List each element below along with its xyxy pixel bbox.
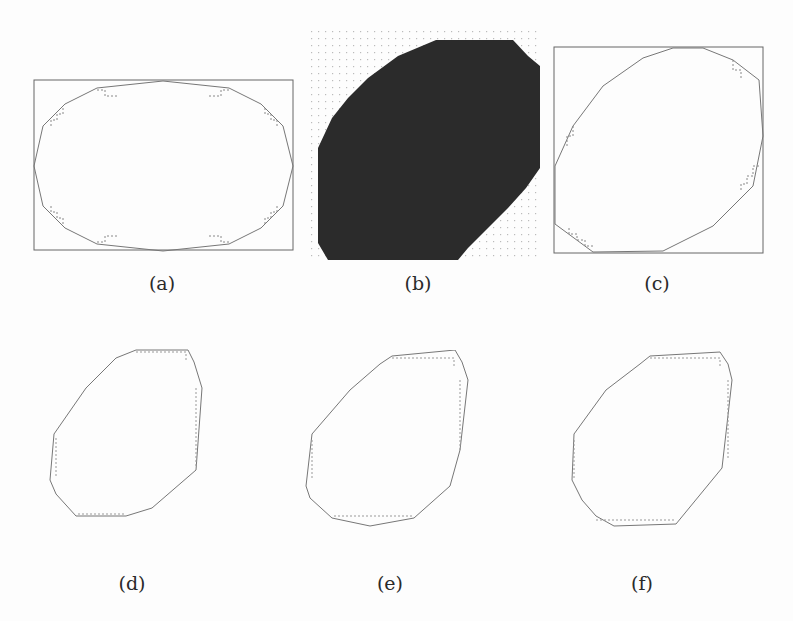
- ellipse-figure-c: [553, 46, 765, 256]
- caption-c: (c): [627, 272, 687, 294]
- pixel-ellipse-figure-b: [308, 28, 540, 260]
- polygon-figure-e: [300, 350, 490, 540]
- polygon-figure-d: [46, 348, 236, 538]
- panel-f: [556, 350, 746, 540]
- caption-a: (a): [132, 272, 192, 294]
- polygon-figure-f: [556, 350, 746, 540]
- panel-d: [46, 348, 236, 538]
- caption-d: (d): [102, 572, 162, 594]
- caption-e: (e): [360, 572, 420, 594]
- ellipse-figure-a: [33, 78, 295, 254]
- caption-b: (b): [388, 272, 448, 294]
- caption-f: (f): [612, 572, 672, 594]
- panel-b: [308, 28, 540, 260]
- panel-e: [300, 350, 490, 540]
- panel-c: [553, 46, 765, 256]
- panel-a: [33, 78, 295, 254]
